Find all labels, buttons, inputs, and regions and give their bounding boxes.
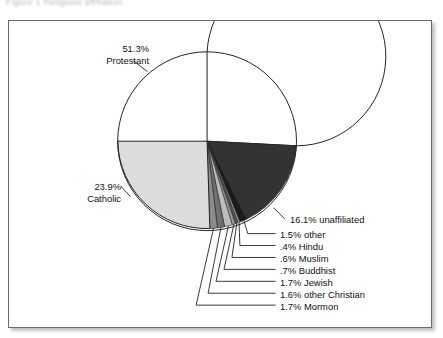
label-catholic-pct: 23.9% — [15, 181, 121, 193]
pie-slices — [118, 21, 386, 231]
leader-unaffiliated — [274, 208, 285, 219]
pie-chart — [9, 21, 431, 327]
label-muslim: .6% Muslim — [280, 253, 328, 264]
leader-buddhist — [224, 224, 276, 269]
label-protestant: 51.3% Protestant — [65, 43, 149, 66]
cropped-caption-strip: Figure 1 Religious affiliation — [0, 0, 443, 14]
leader-muslim — [232, 223, 276, 257]
chart-frame: 51.3% Protestant 23.9% Catholic 16.1% un… — [8, 20, 432, 328]
leader-catholic — [121, 186, 131, 197]
slice-catholic[interactable] — [118, 141, 210, 228]
label-other-christian: 1.6% other Christian — [280, 289, 365, 300]
slice-protestant[interactable] — [207, 21, 386, 146]
label-protestant-pct: 51.3% — [65, 43, 149, 55]
leader-other — [244, 221, 276, 234]
label-jewish: 1.7% Jewish — [280, 277, 333, 288]
label-buddhist: .7% Buddhist — [280, 265, 335, 276]
label-unaffiliated: 16.1% unaffiliated — [290, 214, 364, 225]
label-hindu: .4% Hindu — [280, 241, 323, 252]
leader-other-christian — [208, 227, 276, 293]
caption-text: Figure 1 Religious affiliation — [6, 0, 122, 7]
label-other: 1.5% other — [280, 229, 325, 240]
label-catholic: 23.9% Catholic — [15, 181, 121, 204]
label-catholic-name: Catholic — [15, 193, 121, 205]
label-mormon: 1.7% Mormon — [280, 301, 338, 312]
label-protestant-name: Protestant — [65, 55, 149, 67]
leader-jewish — [216, 226, 276, 281]
